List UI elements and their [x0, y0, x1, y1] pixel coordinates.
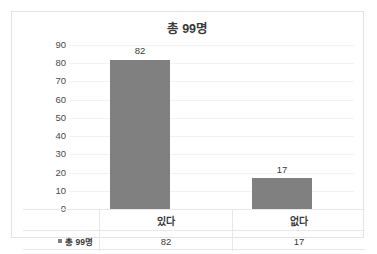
y-axis-tick-label: 10 — [34, 186, 66, 196]
chart-container: 총 99명 0102030405060708090 8217 있다없다 총 99… — [11, 11, 364, 238]
y-axis-tick-label: 80 — [34, 58, 66, 68]
table-legend-spacer — [23, 210, 99, 230]
bar-data-label: 17 — [277, 165, 288, 175]
table-cell-category: 없다 — [232, 210, 365, 230]
legend-label: 총 99명 — [65, 235, 93, 247]
y-axis-tick-label: 50 — [34, 113, 66, 123]
y-axis-tick-label: 30 — [34, 150, 66, 160]
data-table: 있다없다 총 99명 8217 — [23, 209, 365, 250]
plot-area: 8217 — [69, 45, 354, 209]
y-axis-tick-label: 90 — [34, 40, 66, 50]
table-row-values: 총 99명 8217 — [23, 230, 365, 251]
bar-data-label: 82 — [135, 46, 146, 56]
chart-title: 총 99명 — [12, 18, 363, 37]
bar-group: 82 — [69, 45, 211, 209]
table-cell-category: 있다 — [99, 210, 232, 230]
legend-entry: 총 99명 — [23, 231, 99, 251]
bar[interactable] — [110, 60, 170, 209]
y-axis-tick-labels: 0102030405060708090 — [34, 45, 66, 209]
bar-series: 8217 — [69, 45, 354, 209]
bar-group: 17 — [211, 45, 353, 209]
table-row-categories: 있다없다 — [23, 210, 365, 230]
bar[interactable] — [252, 178, 312, 209]
y-axis-tick-label: 60 — [34, 95, 66, 105]
table-cell-value: 17 — [232, 231, 365, 251]
y-axis-tick-label: 20 — [34, 168, 66, 178]
legend-swatch-icon — [58, 239, 62, 243]
table-cell-value: 82 — [99, 231, 232, 251]
y-axis-tick-label: 40 — [34, 131, 66, 141]
y-axis-tick-label: 70 — [34, 77, 66, 87]
